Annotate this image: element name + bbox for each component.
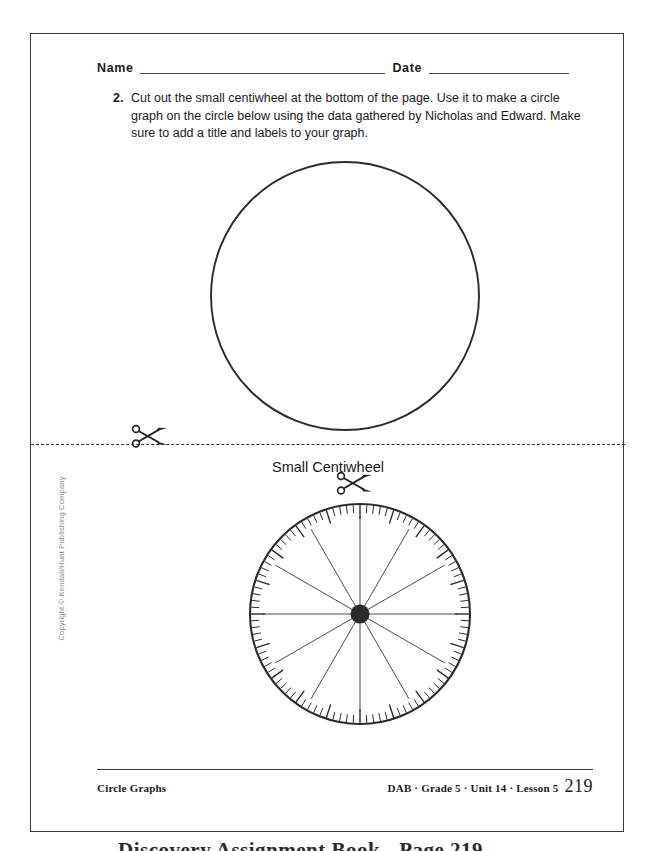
small-centiwheel[interactable] (242, 496, 478, 732)
cut-line (31, 444, 625, 446)
below-page-caption: Discovery Assignment Book - Page 219 (118, 838, 538, 851)
name-write-line[interactable] (140, 72, 385, 74)
scissors-icon (129, 424, 169, 448)
footer-meta: DAB · Grade 5 · Unit 14 · Lesson 5 219 (388, 776, 593, 797)
footer-divider (97, 769, 593, 770)
circle-graph-outline[interactable] (209, 160, 481, 432)
centiwheel-caption: Small Centiwheel (31, 459, 625, 475)
footer-title: Circle Graphs (97, 782, 166, 794)
cut-line-dashes (31, 444, 625, 445)
page-number: 219 (565, 776, 594, 797)
worksheet-page: Name Date 2. Cut out the small centiwhee… (30, 33, 624, 832)
date-write-line[interactable] (429, 72, 569, 74)
copyright-notice: Copyright © Kendall/Hunt Publishing Comp… (57, 469, 66, 649)
footer: Circle Graphs DAB · Grade 5 · Unit 14 · … (97, 776, 593, 797)
footer-breadcrumb: DAB · Grade 5 · Unit 14 · Lesson 5 (388, 782, 559, 794)
instruction-text: Cut out the small centiwheel at the bott… (131, 90, 583, 143)
instruction-block: 2. Cut out the small centiwheel at the b… (113, 90, 583, 143)
instruction-number: 2. (113, 90, 131, 108)
name-label: Name (97, 61, 133, 77)
date-label: Date (392, 61, 422, 77)
scissors-icon (334, 470, 374, 496)
name-date-row: Name Date (97, 51, 597, 77)
